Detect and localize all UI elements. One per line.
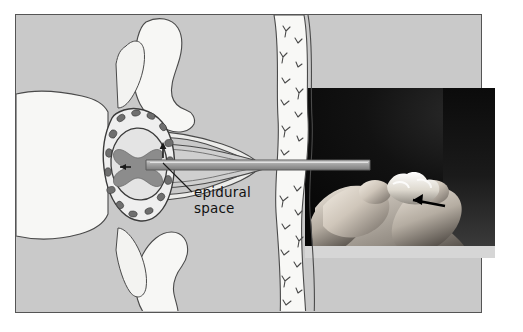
epidural-space-label: epidural space: [194, 185, 280, 217]
epidural-catheter: [146, 160, 370, 170]
anatomy-diagram: [0, 0, 523, 332]
inferior-articular-process: [116, 228, 147, 297]
epidural-space-label-line1: epidural: [194, 185, 280, 201]
vertebral-body: [16, 91, 108, 239]
epidural-space-label-line2: space: [194, 201, 280, 217]
figure-canvas: epidural space: [0, 0, 523, 332]
